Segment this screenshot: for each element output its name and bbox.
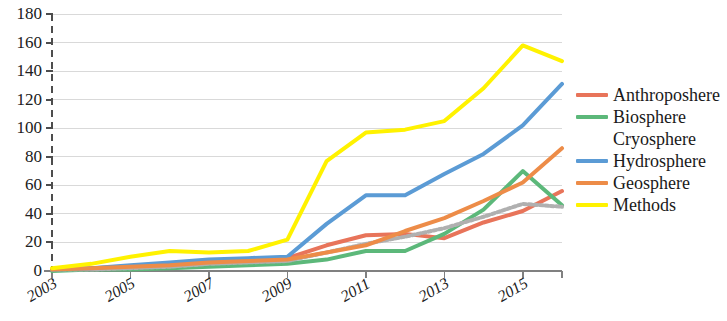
series-line-hydrosphere: [52, 84, 562, 270]
chart-series-group: [52, 45, 562, 271]
legend-item-hydrosphere[interactable]: Hydrosphere: [576, 150, 726, 172]
y-axis-tick-label: 140: [0, 62, 42, 79]
legend-swatch-icon: [576, 93, 608, 97]
y-axis-tick-label: 0: [0, 262, 42, 279]
legend-swatch-icon: [576, 115, 608, 119]
y-axis-tick-label: 100: [0, 119, 42, 136]
chart-axes: [44, 14, 562, 278]
legend-item-label: Geosphere: [613, 173, 690, 193]
legend-item-biosphere[interactable]: Biosphere: [576, 106, 726, 128]
y-axis-tick-label: 40: [0, 205, 42, 222]
y-axis-tick-label: 180: [0, 5, 42, 22]
legend-swatch-icon: [576, 181, 608, 185]
legend-item-label: Biosphere: [613, 107, 686, 127]
legend-swatch-icon: [576, 159, 608, 163]
legend-item-label: Anthroposhere: [613, 85, 720, 105]
legend-swatch-icon: [576, 203, 608, 207]
legend-item-methods[interactable]: Methods: [576, 194, 726, 216]
chart-legend: AnthroposhereBiosphereCryosphereHydrosph…: [576, 84, 726, 216]
y-axis-tick-label: 20: [0, 233, 42, 250]
legend-item-label: Hydrosphere: [613, 151, 706, 171]
y-axis-tick-label: 120: [0, 91, 42, 108]
legend-item-label: Cryosphere: [613, 129, 696, 149]
y-axis-tick-label: 60: [0, 176, 42, 193]
legend-item-label: Methods: [613, 195, 676, 215]
y-axis-tick-label: 160: [0, 34, 42, 51]
legend-item-anthroposhere[interactable]: Anthroposhere: [576, 84, 726, 106]
line-chart: 020406080100120140160180 200320052007200…: [0, 0, 727, 321]
legend-item-cryosphere[interactable]: Cryosphere: [576, 128, 726, 150]
y-axis-tick-label: 80: [0, 148, 42, 165]
legend-item-geosphere[interactable]: Geosphere: [576, 172, 726, 194]
legend-swatch-icon: [576, 137, 608, 141]
